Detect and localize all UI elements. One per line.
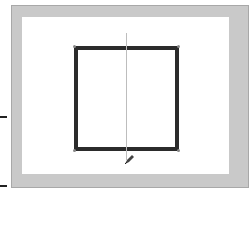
ruler-tick-marker xyxy=(0,185,7,187)
anchor-point-handle[interactable] xyxy=(73,149,76,152)
vertical-guide-line[interactable] xyxy=(126,33,127,160)
anchor-point-handle[interactable] xyxy=(177,45,180,48)
anchor-point-handle[interactable] xyxy=(177,149,180,152)
anchor-point-handle[interactable] xyxy=(73,45,76,48)
ruler-tick-marker xyxy=(0,116,7,118)
pen-cursor-icon xyxy=(123,153,135,165)
